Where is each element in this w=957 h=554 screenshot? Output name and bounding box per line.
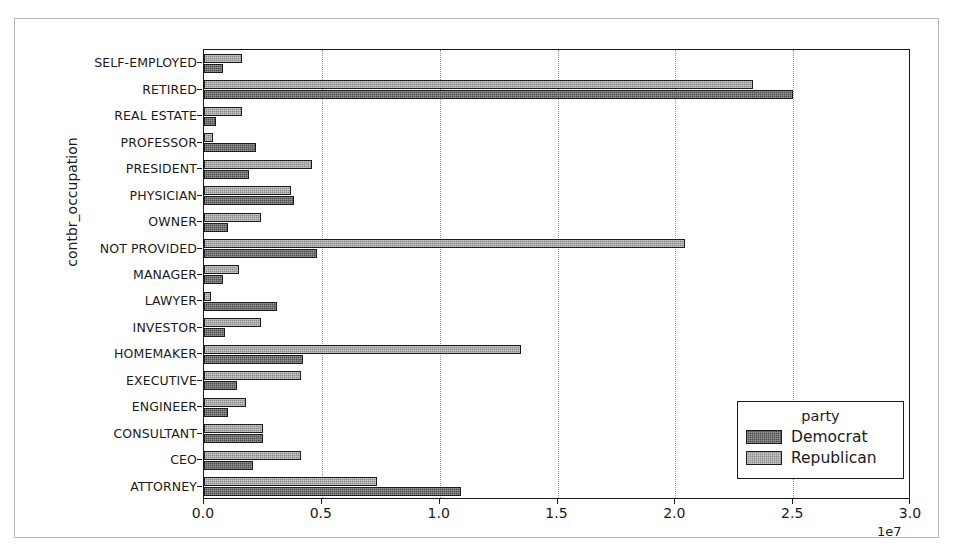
chart-page: contbr_occupation SELF-EMPLOYEDRETIREDRE… [0, 0, 957, 554]
x-tick-mark [321, 499, 322, 504]
x-tick-label: 2.0 [663, 505, 685, 521]
bar-republican [204, 80, 753, 89]
x-tick-label: 1.0 [428, 505, 450, 521]
x-tick-label: 2.5 [781, 505, 803, 521]
legend-swatch [746, 430, 782, 444]
legend: party DemocratRepublican [737, 401, 904, 479]
x-axis-offset-label: 1e7 [877, 524, 902, 539]
y-tick-mark [197, 221, 202, 222]
bar-group [204, 262, 909, 288]
bar-democrat [204, 64, 223, 73]
legend-label: Democrat [791, 428, 868, 446]
bar-republican [204, 107, 242, 116]
bar-republican [204, 371, 301, 380]
figure-frame: contbr_occupation SELF-EMPLOYEDRETIREDRE… [14, 18, 939, 538]
bar-democrat [204, 381, 237, 390]
bar-democrat [204, 434, 263, 443]
bar-republican [204, 186, 291, 195]
y-tick-mark [197, 168, 202, 169]
bar-republican [204, 292, 211, 301]
x-tick-label: 3.0 [899, 505, 921, 521]
bar-republican [204, 318, 261, 327]
y-tick-mark [197, 459, 202, 460]
bar-republican [204, 133, 213, 142]
bar-democrat [204, 487, 461, 496]
y-tick-mark [197, 406, 202, 407]
bar-group [204, 368, 909, 394]
bar-group [204, 288, 909, 314]
y-tick-mark [197, 195, 202, 196]
bar-democrat [204, 355, 303, 364]
bar-democrat [204, 408, 228, 417]
bar-group [204, 50, 909, 76]
y-axis-tick-marks [15, 49, 203, 499]
y-tick-mark [197, 433, 202, 434]
legend-swatch [746, 451, 782, 465]
bar-republican [204, 213, 261, 222]
y-tick-mark [197, 300, 202, 301]
bar-group [204, 315, 909, 341]
bar-democrat [204, 223, 228, 232]
bar-group [204, 76, 909, 102]
bar-group [204, 209, 909, 235]
y-tick-mark [197, 327, 202, 328]
bar-democrat [204, 196, 294, 205]
bar-republican [204, 451, 301, 460]
bar-group [204, 182, 909, 208]
y-tick-mark [197, 62, 202, 63]
x-tick-label: 0.0 [192, 505, 214, 521]
bar-republican [204, 54, 242, 63]
x-tick-mark [439, 499, 440, 504]
bar-republican [204, 160, 312, 169]
bar-group [204, 341, 909, 367]
bar-democrat [204, 249, 317, 258]
x-tick-mark [203, 499, 204, 504]
bar-republican [204, 398, 246, 407]
legend-title: party [746, 408, 895, 424]
bar-democrat [204, 302, 277, 311]
y-tick-mark [197, 380, 202, 381]
y-tick-mark [197, 142, 202, 143]
x-axis-tick-labels: 0.00.51.01.52.02.53.0 [203, 505, 910, 525]
y-tick-mark [197, 248, 202, 249]
bar-democrat [204, 90, 793, 99]
x-tick-mark [909, 499, 910, 504]
x-tick-mark [557, 499, 558, 504]
x-tick-mark [792, 499, 793, 504]
bar-republican [204, 477, 377, 486]
x-tick-label: 0.5 [310, 505, 332, 521]
y-tick-mark [197, 274, 202, 275]
bar-democrat [204, 143, 256, 152]
bar-group [204, 129, 909, 155]
bar-democrat [204, 275, 223, 284]
legend-entry: Republican [746, 449, 895, 467]
legend-label: Republican [791, 449, 877, 467]
bar-group [204, 156, 909, 182]
y-tick-mark [197, 486, 202, 487]
y-tick-mark [197, 89, 202, 90]
bar-republican [204, 265, 239, 274]
bar-republican [204, 424, 263, 433]
x-tick-label: 1.5 [545, 505, 567, 521]
bar-democrat [204, 461, 253, 470]
y-tick-mark [197, 115, 202, 116]
bar-group [204, 235, 909, 261]
bar-democrat [204, 170, 249, 179]
bar-republican [204, 239, 685, 248]
bar-group [204, 103, 909, 129]
bar-democrat [204, 117, 216, 126]
x-tick-mark [674, 499, 675, 504]
y-tick-mark [197, 353, 202, 354]
bar-democrat [204, 328, 225, 337]
legend-entry: Democrat [746, 428, 895, 446]
legend-entries: DemocratRepublican [746, 428, 895, 467]
bar-republican [204, 345, 521, 354]
